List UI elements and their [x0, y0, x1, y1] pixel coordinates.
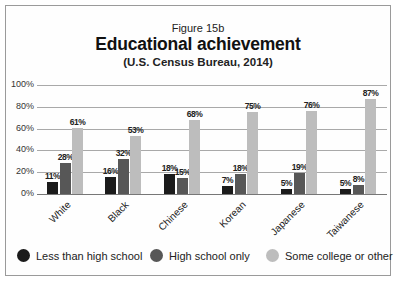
data-label: 68% — [180, 109, 210, 119]
data-label: 76% — [297, 100, 327, 110]
x-axis-line — [37, 194, 387, 195]
legend-swatch-icon — [150, 249, 163, 262]
bar-japanese-high-school-only — [294, 173, 305, 194]
legend-item-less-than-high-school: Less than high school — [17, 249, 142, 262]
figure-label: Figure 15b — [0, 22, 396, 34]
bar-chinese-high-school-only — [177, 178, 188, 194]
bar-chinese-less-than-high-school — [164, 174, 175, 194]
bar-korean-some-college-or-other — [247, 112, 258, 194]
y-tick-label: 0% — [8, 188, 34, 198]
bar-korean-less-than-high-school — [222, 186, 233, 194]
legend-label: Less than high school — [36, 250, 142, 262]
legend-swatch-icon — [17, 249, 30, 262]
y-tick-label: 40% — [8, 144, 34, 154]
bar-black-less-than-high-school — [105, 177, 116, 194]
legend-item-high-school-only: High school only — [150, 249, 250, 262]
data-label: 87% — [356, 88, 386, 98]
legend-item-some-college-or-other: Some college or other — [266, 249, 393, 262]
data-label: 75% — [238, 101, 268, 111]
gridline — [37, 172, 387, 173]
legend-swatch-icon — [266, 249, 279, 262]
y-tick-label: 80% — [8, 101, 34, 111]
data-label: 53% — [121, 125, 151, 135]
gridline — [37, 150, 387, 151]
bar-taiwanese-less-than-high-school — [340, 189, 351, 194]
chart-subtitle: (U.S. Census Bureau, 2014) — [0, 56, 396, 68]
bar-taiwanese-some-college-or-other — [365, 99, 376, 194]
gridline — [37, 107, 387, 108]
legend-label: Some college or other — [285, 250, 393, 262]
bar-black-some-college-or-other — [130, 136, 141, 194]
bar-white-high-school-only — [60, 163, 71, 194]
gridline — [37, 129, 387, 130]
bar-japanese-some-college-or-other — [306, 111, 317, 194]
y-tick-label: 20% — [8, 166, 34, 176]
bar-black-high-school-only — [118, 159, 129, 194]
bar-japanese-less-than-high-school — [281, 189, 292, 194]
bar-korean-high-school-only — [235, 174, 246, 194]
bar-chinese-some-college-or-other — [189, 120, 200, 194]
y-tick-label: 100% — [8, 79, 34, 89]
y-tick-label: 60% — [8, 123, 34, 133]
legend-label: High school only — [169, 250, 250, 262]
data-label: 61% — [63, 117, 93, 127]
chart-title: Educational achievement — [0, 34, 396, 55]
gridline — [37, 85, 387, 86]
bar-white-less-than-high-school — [47, 182, 58, 194]
bar-white-some-college-or-other — [72, 128, 83, 194]
bar-taiwanese-high-school-only — [353, 185, 364, 194]
